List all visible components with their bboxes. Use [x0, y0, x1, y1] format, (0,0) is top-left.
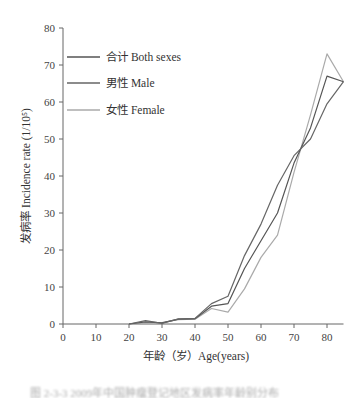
legend: 合计 Both sexes男性 Male女性 Female [67, 50, 182, 116]
x-tick-label: 20 [124, 331, 136, 343]
x-tick-label: 60 [256, 331, 268, 343]
legend-label: 女性 Female [106, 103, 165, 116]
x-tick-label: 10 [91, 331, 103, 343]
x-tick-label: 80 [322, 331, 334, 343]
series-line-male [129, 82, 344, 324]
x-tick-label: 30 [157, 331, 169, 343]
y-tick-label: 60 [44, 96, 56, 108]
series-line-female [129, 54, 344, 324]
legend-label: 男性 Male [106, 76, 155, 89]
y-tick-label: 0 [50, 318, 56, 330]
x-tick-label: 70 [289, 331, 301, 343]
x-tick-label: 40 [190, 331, 202, 343]
y-axis-title: 发病率 Incidence rate (1/10⁵) [19, 108, 33, 244]
y-tick-label: 80 [44, 22, 56, 34]
series-lines [129, 54, 344, 324]
y-tick-label: 10 [44, 281, 56, 293]
y-tick-label: 20 [44, 244, 56, 256]
figure-caption: 图 2-3-3 2009年中国肿瘤登记地区发病率年龄别分布 [30, 384, 350, 398]
y-tick-label: 30 [44, 207, 56, 219]
legend-label: 合计 Both sexes [106, 50, 182, 63]
axes: 0102030405060708001020304050607080 [44, 22, 344, 343]
y-tick-label: 40 [44, 170, 56, 182]
x-tick-label: 0 [60, 331, 66, 343]
x-tick-label: 50 [223, 331, 235, 343]
x-axis-title: 年龄（岁）Age(years) [143, 349, 249, 363]
y-tick-label: 50 [44, 133, 56, 145]
y-tick-label: 70 [44, 59, 56, 71]
